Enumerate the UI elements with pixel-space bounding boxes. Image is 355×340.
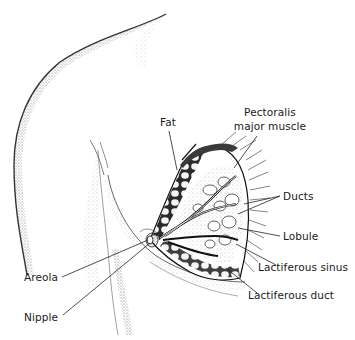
label-lactiferous-duct: Lactiferous duct bbox=[248, 289, 334, 301]
label-areola: Areola bbox=[24, 271, 58, 283]
label-pectoralis-line2: major muscle bbox=[228, 120, 312, 132]
label-pectoralis-line1: Pectoralis bbox=[232, 106, 308, 118]
label-fat: Fat bbox=[160, 116, 176, 128]
anatomy-diagram: Fat Pectoralis major muscle Ducts Lobule… bbox=[0, 0, 355, 340]
label-ducts: Ducts bbox=[283, 190, 314, 202]
torso-outline bbox=[14, 14, 166, 335]
label-lobule: Lobule bbox=[283, 230, 318, 242]
label-lactiferous-sinus: Lactiferous sinus bbox=[258, 261, 348, 273]
label-nipple: Nipple bbox=[24, 311, 58, 323]
